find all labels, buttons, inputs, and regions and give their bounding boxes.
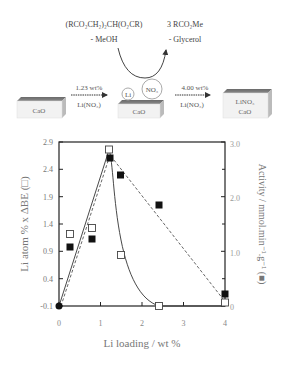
y-left-tick: -0.1 <box>40 302 53 311</box>
reactant-formula: (RCO₂CH₂)₂CH(O₂CR) <box>66 20 143 29</box>
x-axis <box>59 302 225 306</box>
data-point <box>118 252 125 259</box>
block1-label: CaO <box>33 107 46 115</box>
data-point <box>156 202 163 209</box>
figure: (RCO₂CH₂)₂CH(O₂CR) - MeOH 3 RCO₂Me - Gly… <box>0 0 287 369</box>
y-left-tick: 1.9 <box>43 193 53 202</box>
chart: 2.9 2.4 1.9 1.4 0.9 0.4 -0.1 3.0 2.0 1.0… <box>18 138 268 349</box>
y-right-tick: 2.0 <box>230 194 240 203</box>
li-bubble-label: Li <box>125 91 131 99</box>
data-point <box>107 155 114 162</box>
curved-arrow-icon <box>118 48 166 78</box>
arrow2-bottom-label: Li(NO₃) <box>180 101 204 109</box>
y-left-tick: 2.9 <box>43 138 53 147</box>
y-right-tick: 1.0 <box>230 249 240 258</box>
plot-frame <box>59 142 225 306</box>
y-left-axis-label: Li atom % x ΔBE (□) <box>18 176 31 272</box>
data-point <box>222 299 229 306</box>
data-point <box>106 146 113 153</box>
x-tick: 2 <box>140 319 144 328</box>
reaction-scheme: (RCO₂CH₂)₂CH(O₂CR) - MeOH 3 RCO₂Me - Gly… <box>17 20 272 118</box>
right-tick-labels: 3.0 2.0 1.0 0 <box>230 140 240 312</box>
arrow1-bottom-label: Li(NO₃) <box>77 101 101 109</box>
y-left-tick: 2.4 <box>43 165 53 174</box>
y-right-tick: 3.0 <box>230 140 240 149</box>
y-left-tick: 1.4 <box>43 220 53 229</box>
xps-fit-curve <box>59 150 225 306</box>
y-left-tick: 0.4 <box>43 275 53 284</box>
x-axis-label: Li loading / wt % <box>104 337 181 349</box>
data-point <box>156 303 163 310</box>
block2-label: CaO <box>133 108 146 116</box>
cao-block-2: CaO Li NO₃ <box>118 79 164 118</box>
no3-bubble-label: NO₃ <box>146 86 159 94</box>
x-tick: 0 <box>57 319 61 328</box>
block3-label: CaO <box>239 108 252 116</box>
data-point <box>67 244 74 251</box>
right-axis <box>221 142 225 306</box>
activity-fit-line <box>61 155 223 306</box>
x-tick: 1 <box>99 319 103 328</box>
data-point <box>117 172 124 179</box>
data-point <box>89 225 96 232</box>
block3-top-label: LiNO₃ <box>236 98 255 106</box>
cao-block-1: CaO <box>17 97 66 118</box>
arrow1-top-label: 1.23 wt% <box>76 84 103 92</box>
arrow2-top-label: 4.00 wt% <box>182 84 209 92</box>
x-tick: 4 <box>223 319 227 328</box>
product-sub: - Glycerol <box>169 35 202 44</box>
left-tick-labels: 2.9 2.4 1.9 1.4 0.9 0.4 -0.1 <box>40 138 53 311</box>
y-left-tick: 0.9 <box>43 247 53 256</box>
x-tick: 3 <box>182 319 186 328</box>
product-formula: 3 RCO₂Me <box>167 20 203 29</box>
data-point <box>67 231 74 238</box>
x-tick-labels: 0 1 2 3 4 <box>57 319 227 328</box>
data-point <box>89 236 96 243</box>
origin-point <box>56 303 63 310</box>
y-right-tick: 0 <box>230 303 234 312</box>
reactant-sub: - MeOH <box>91 35 118 44</box>
cao-block-3: LiNO₃ CaO <box>223 89 272 118</box>
data-point <box>222 291 229 298</box>
y-right-axis-label: Activity / mmol.min⁻¹.g⁻¹ (■) <box>256 164 268 285</box>
series-xps <box>67 146 229 310</box>
